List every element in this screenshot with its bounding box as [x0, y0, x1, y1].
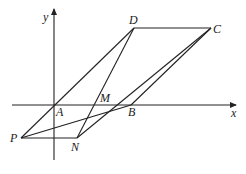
point-label-n: N — [70, 140, 80, 154]
geometry-figure: x y ABCDMNP — [0, 0, 246, 174]
point-label-a: A — [55, 105, 64, 119]
segment-cb — [131, 28, 211, 105]
coordinate-axes: x y — [12, 9, 237, 160]
segments — [21, 28, 211, 138]
point-label-b: B — [128, 105, 136, 119]
segment-cn — [77, 28, 211, 138]
point-label-c: C — [213, 22, 222, 36]
point-label-m: M — [99, 91, 111, 105]
point-label-d: D — [128, 13, 138, 27]
x-axis-label: x — [230, 106, 237, 120]
segment-dn — [77, 28, 134, 138]
point-label-p: P — [9, 131, 18, 145]
y-axis-label: y — [42, 10, 49, 24]
point-labels: ABCDMNP — [9, 13, 222, 154]
